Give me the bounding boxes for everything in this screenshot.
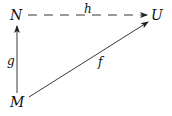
node-N: N (10, 8, 22, 22)
edge-label-g: g (7, 55, 15, 67)
diagram-edges (0, 0, 172, 116)
commutative-diagram: N U M h g f (0, 0, 172, 116)
arrow-f (29, 22, 148, 97)
node-U: U (151, 8, 163, 22)
edge-label-f: f (98, 56, 102, 68)
node-M: M (10, 95, 24, 109)
edge-label-h: h (84, 3, 92, 15)
